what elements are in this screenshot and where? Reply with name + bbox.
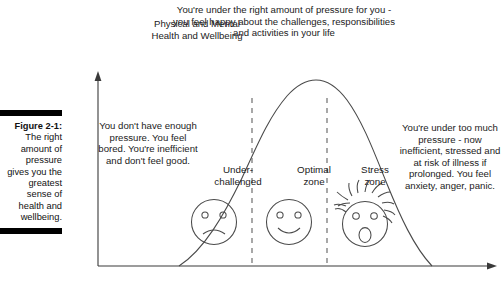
figure-caption-text: Figure 2-1: The right amount of pressure… <box>0 116 84 228</box>
zone-label-under-challenged: Under- challenged <box>201 164 275 188</box>
zone-label-line-1: Stress <box>338 164 412 176</box>
stressed-face <box>334 180 395 247</box>
annotation-underchallenged-description: You don't have enough pressure. You feel… <box>96 120 200 166</box>
x-axis <box>98 263 497 270</box>
figure-caption-block: Figure 2-1: The right amount of pressure… <box>0 110 84 234</box>
zone-label-line-1: Under- <box>201 164 275 176</box>
caption-rule-bottom <box>0 228 62 234</box>
zone-label-line-2: zone <box>338 176 412 188</box>
figure-number: Figure 2-1: <box>2 121 62 132</box>
zone-label-line-2: challenged <box>201 176 275 188</box>
annotation-stress-description: You're under too much pressure - now ine… <box>398 122 502 192</box>
zone-label-stress-zone: Stress zone <box>338 164 412 188</box>
figure-caption-body: The right amount of pressure gives you t… <box>2 132 62 223</box>
happy-face <box>267 200 312 245</box>
sad-face <box>192 200 237 245</box>
y-axis <box>95 71 102 266</box>
annotation-optimal-description: You're under the right amount of pressur… <box>168 4 400 39</box>
